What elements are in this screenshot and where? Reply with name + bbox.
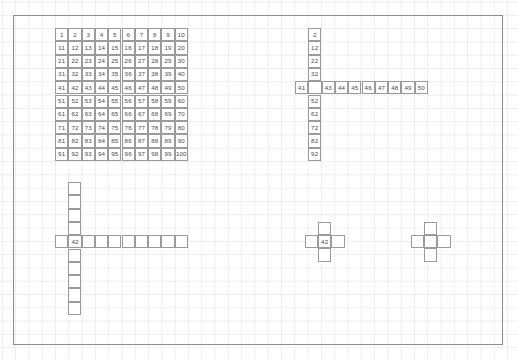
hundred-chart-cell-98: 98 — [148, 148, 161, 161]
blank-cross-large-row-cell-5 — [122, 235, 135, 248]
hundred-chart-cell-78: 78 — [148, 121, 161, 134]
hundred-chart-cell-24: 24 — [95, 55, 108, 68]
hundred-chart-cell-42: 42 — [68, 81, 81, 94]
hundred-chart-cell-9: 9 — [161, 28, 174, 41]
numbered-cross-chart-row-cell-5: 46 — [362, 81, 375, 94]
hundred-chart-cell-66: 66 — [122, 108, 135, 121]
hundred-chart-cell-90: 90 — [175, 134, 188, 147]
hundred-chart-cell-19: 19 — [161, 41, 174, 54]
hundred-chart-cell-73: 73 — [82, 121, 95, 134]
hundred-chart-cell-96: 96 — [122, 148, 135, 161]
hundred-chart-cell-20: 20 — [175, 41, 188, 54]
hundred-chart-cell-31: 31 — [55, 68, 68, 81]
hundred-chart-cell-47: 47 — [135, 81, 148, 94]
blank-cross-large-row-cell-7 — [148, 235, 161, 248]
hundred-chart-cell-53: 53 — [82, 95, 95, 108]
hundred-chart-cell-32: 32 — [68, 68, 81, 81]
plus-shape-labeled-center-cell: 42 — [318, 235, 331, 248]
hundred-chart-cell-97: 97 — [135, 148, 148, 161]
hundred-chart-cell-28: 28 — [148, 55, 161, 68]
hundred-chart-cell-74: 74 — [95, 121, 108, 134]
numbered-cross-chart-row-cell-3: 44 — [335, 81, 348, 94]
blank-cross-large-row-cell-1: 42 — [68, 235, 81, 248]
hundred-chart-cell-5: 5 — [108, 28, 121, 41]
hundred-chart-cell-1: 1 — [55, 28, 68, 41]
hundred-chart-cell-75: 75 — [108, 121, 121, 134]
numbered-cross-chart-column-cell-2: 22 — [308, 55, 321, 68]
hundred-chart-cell-92: 92 — [68, 148, 81, 161]
hundred-chart-cell-6: 6 — [122, 28, 135, 41]
hundred-chart-cell-11: 11 — [55, 41, 68, 54]
blank-cross-large-row-cell-3 — [95, 235, 108, 248]
hundred-chart-cell-54: 54 — [95, 95, 108, 108]
hundred-chart-cell-48: 48 — [148, 81, 161, 94]
hundred-chart-cell-93: 93 — [82, 148, 95, 161]
hundred-chart-cell-8: 8 — [148, 28, 161, 41]
hundred-chart-cell-64: 64 — [95, 108, 108, 121]
numbered-cross-chart-row-cell-7: 48 — [388, 81, 401, 94]
hundred-chart-cell-43: 43 — [82, 81, 95, 94]
hundred-chart-cell-83: 83 — [82, 134, 95, 147]
hundred-chart-cell-55: 55 — [108, 95, 121, 108]
hundred-chart-cell-89: 89 — [161, 134, 174, 147]
hundred-chart-cell-27: 27 — [135, 55, 148, 68]
hundred-chart-cell-16: 16 — [122, 41, 135, 54]
hundred-chart-cell-17: 17 — [135, 41, 148, 54]
hundred-chart-cell-34: 34 — [95, 68, 108, 81]
plus-shape-blank-center-cell — [424, 235, 437, 248]
numbered-cross-chart-column-cell-5: 52 — [308, 95, 321, 108]
hundred-chart-cell-46: 46 — [122, 81, 135, 94]
numbered-cross-chart-column-cell-6: 62 — [308, 108, 321, 121]
hundred-chart-cell-25: 25 — [108, 55, 121, 68]
hundred-chart-cell-70: 70 — [175, 108, 188, 121]
hundred-chart-cell-51: 51 — [55, 95, 68, 108]
plus-shape-labeled-right-cell — [331, 235, 344, 248]
plus-shape-blank-left-cell — [411, 235, 424, 248]
plus-shape-labeled-bottom-cell — [318, 248, 331, 261]
hundred-chart-cell-60: 60 — [175, 95, 188, 108]
hundred-chart-cell-88: 88 — [148, 134, 161, 147]
numbered-cross-chart-row-cell-1 — [308, 81, 321, 94]
blank-cross-large-column-cell-2 — [68, 209, 81, 222]
numbered-cross-chart-column-cell-7: 72 — [308, 121, 321, 134]
hundred-chart-cell-86: 86 — [122, 134, 135, 147]
blank-cross-large-column-cell-0 — [68, 182, 81, 195]
hundred-chart-cell-82: 82 — [68, 134, 81, 147]
hundred-chart-cell-95: 95 — [108, 148, 121, 161]
hundred-chart-cell-2: 2 — [68, 28, 81, 41]
blank-cross-large-row-cell-6 — [135, 235, 148, 248]
grid-layer: 1234567891011121314151617181920212223242… — [0, 0, 518, 360]
hundred-chart-cell-18: 18 — [148, 41, 161, 54]
hundred-chart-cell-68: 68 — [148, 108, 161, 121]
hundred-chart-cell-33: 33 — [82, 68, 95, 81]
hundred-chart-cell-99: 99 — [161, 148, 174, 161]
hundred-chart-cell-80: 80 — [175, 121, 188, 134]
hundred-chart-cell-26: 26 — [122, 55, 135, 68]
hundred-chart-cell-40: 40 — [175, 68, 188, 81]
numbered-cross-chart-row-cell-6: 47 — [375, 81, 388, 94]
hundred-chart-cell-7: 7 — [135, 28, 148, 41]
hundred-chart-cell-13: 13 — [82, 41, 95, 54]
hundred-chart-cell-37: 37 — [135, 68, 148, 81]
hundred-chart-cell-94: 94 — [95, 148, 108, 161]
blank-cross-large-row-cell-0 — [55, 235, 68, 248]
hundred-chart-cell-79: 79 — [161, 121, 174, 134]
hundred-chart-cell-35: 35 — [108, 68, 121, 81]
hundred-chart-cell-67: 67 — [135, 108, 148, 121]
plus-shape-blank-bottom-cell — [424, 248, 437, 261]
blank-cross-large-row-cell-2 — [82, 235, 95, 248]
hundred-chart-cell-44: 44 — [95, 81, 108, 94]
numbered-cross-chart-column-cell-1: 12 — [308, 41, 321, 54]
numbered-cross-chart-column-cell-0: 2 — [308, 28, 321, 41]
blank-cross-large-column-cell-1 — [68, 195, 81, 208]
hundred-chart-cell-45: 45 — [108, 81, 121, 94]
hundred-chart-cell-30: 30 — [175, 55, 188, 68]
hundred-chart-cell-71: 71 — [55, 121, 68, 134]
hundred-chart-cell-69: 69 — [161, 108, 174, 121]
hundred-chart-cell-41: 41 — [55, 81, 68, 94]
blank-cross-large-column-cell-9 — [68, 302, 81, 315]
blank-cross-large-row-cell-4 — [108, 235, 121, 248]
hundred-chart-cell-87: 87 — [135, 134, 148, 147]
numbered-cross-chart-column-cell-9: 92 — [308, 148, 321, 161]
hundred-chart-cell-85: 85 — [108, 134, 121, 147]
